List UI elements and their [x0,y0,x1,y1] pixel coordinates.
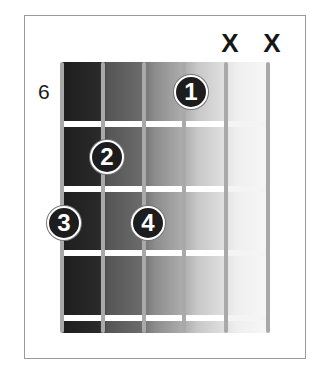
fret-line-2-faded [228,186,268,192]
muted-string-6-marker: X [260,31,284,55]
string-5 [224,62,228,333]
fretboard [62,62,270,333]
starting-fret-label: 6 [38,80,50,104]
fret-line-3-faded [228,250,268,256]
muted-string-5-marker: X [218,31,242,55]
fretboard-shading [62,62,268,333]
finger-dot-2: 2 [90,140,124,174]
string-1 [60,62,64,333]
string-6 [266,62,270,333]
string-3 [142,62,146,333]
string-2 [101,62,105,333]
finger-dot-3: 3 [47,206,81,240]
fret-line-1-faded [228,121,268,127]
finger-dot-4: 4 [131,206,165,240]
finger-dot-1: 1 [174,75,208,109]
fret-line-4-faded [228,315,268,321]
